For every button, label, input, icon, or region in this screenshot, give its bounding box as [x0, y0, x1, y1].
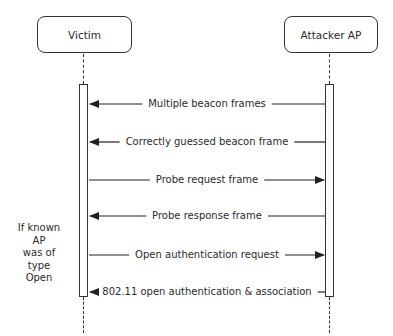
condition-note: If known AP was of type Open: [14, 222, 64, 285]
note-line-2: was of type: [14, 247, 64, 272]
note-line-3: Open: [14, 272, 64, 285]
message-label-3: Probe request frame: [89, 173, 325, 186]
message-label-1: Multiple beacon frames: [89, 97, 325, 110]
message-label-4: Probe response frame: [89, 209, 325, 222]
message-label-5: Open authentication request: [89, 248, 325, 261]
note-line-1: If known AP: [14, 222, 64, 247]
message-label-6: 802.11 open authentication & association: [89, 285, 325, 298]
message-label-2: Correctly guessed beacon frame: [89, 135, 325, 148]
